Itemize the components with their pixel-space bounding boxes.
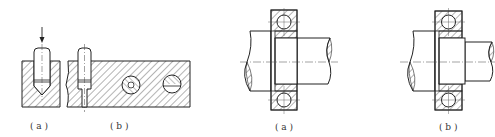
fig-right-b-bearing (400, 8, 495, 114)
label-left-a: ( a ) (30, 121, 48, 131)
technical-drawing: ( a ) ( b ) ( a ) (0, 0, 495, 137)
fig-right-a-bearing (240, 8, 338, 114)
fig-left-a-pin-blind-hole (22, 27, 60, 107)
label-left-b: ( b ) (110, 121, 129, 131)
section-hollow-pin (122, 76, 140, 94)
arrow-down-icon (40, 27, 45, 43)
section-split-pin (163, 75, 181, 93)
fig-left-b-pin-through-hole (66, 44, 190, 112)
label-right-a: ( a ) (275, 122, 293, 132)
label-right-b: ( b ) (439, 122, 458, 132)
